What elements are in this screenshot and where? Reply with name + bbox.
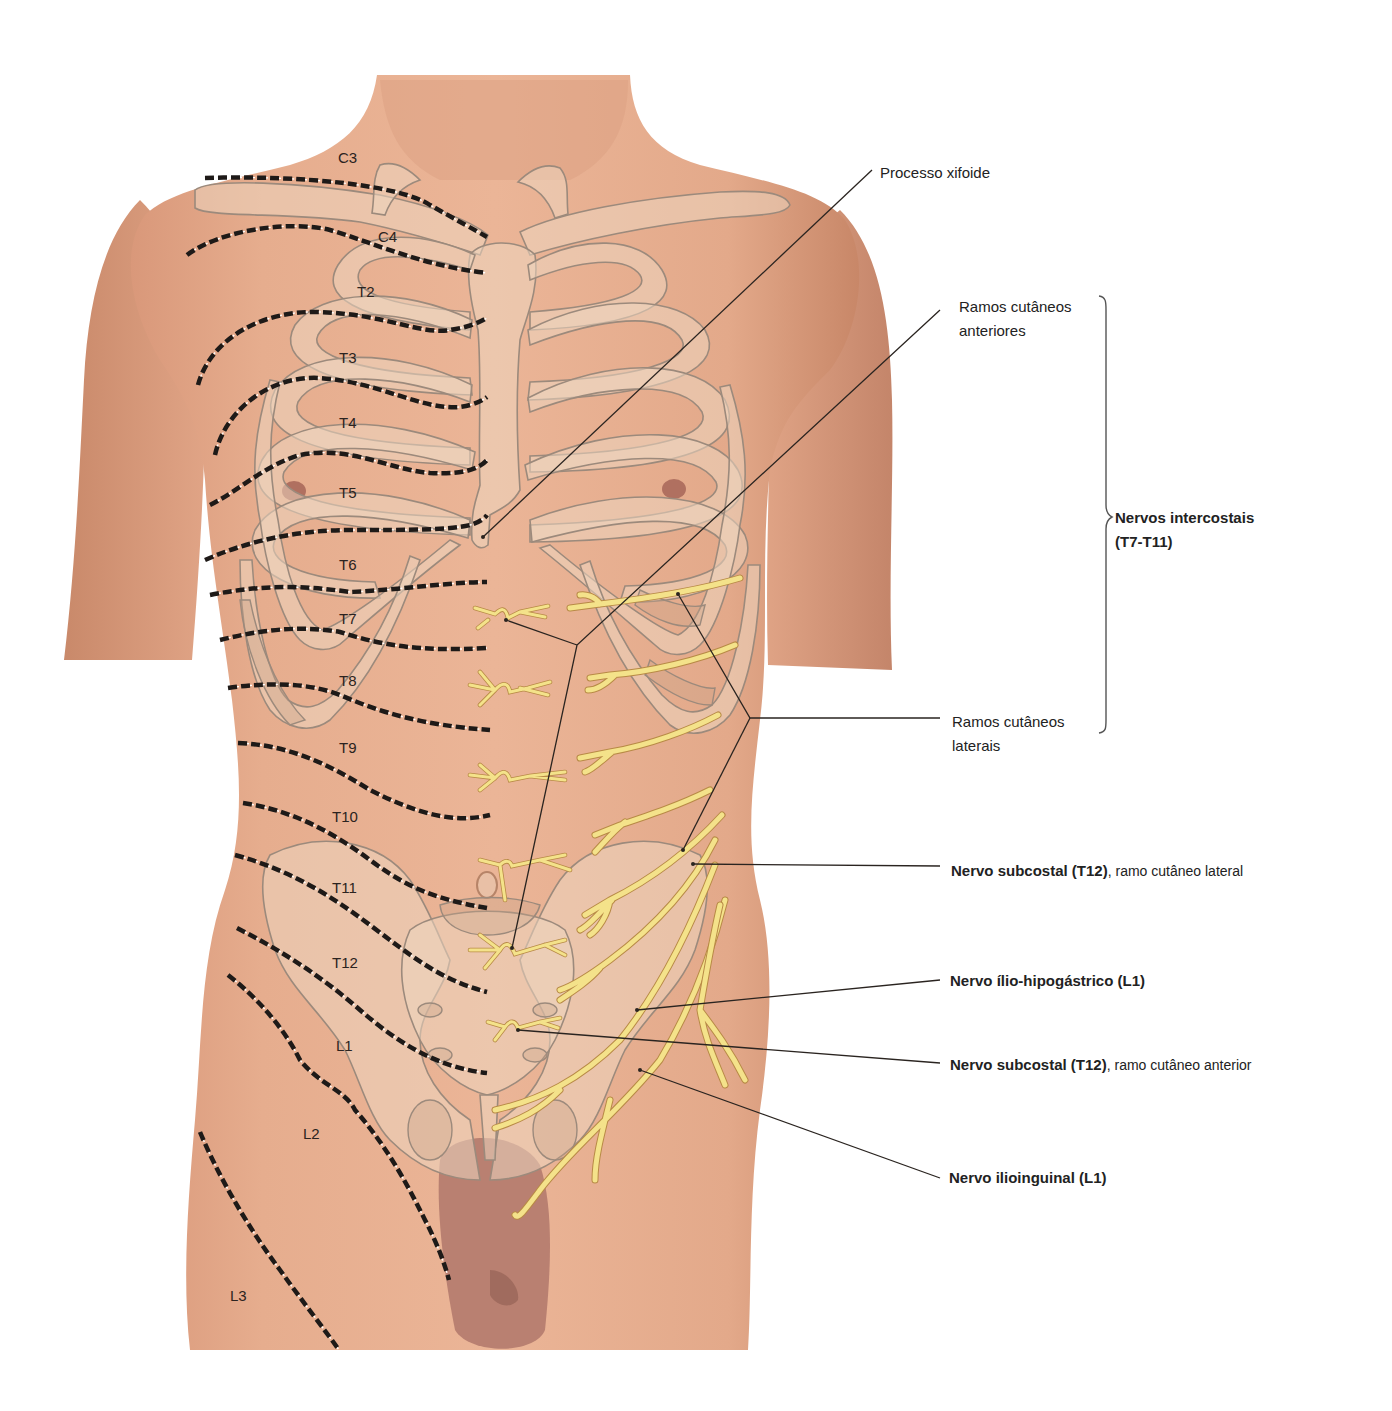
- intercostal-bracket: [1099, 296, 1112, 733]
- label-nervo-subcostal-lateral: Nervo subcostal (T12), ramo cutâneo late…: [951, 859, 1243, 883]
- label-nervos-intercostais: Nervos intercostais (T7-T11): [1115, 506, 1254, 554]
- dermatome-label-t2: T2: [357, 283, 375, 300]
- dermatome-label-t8: T8: [339, 672, 357, 689]
- anatomy-illustration: C3 C4 T2 T3 T4 T5 T6 T7 T8 T9 T10 T11 T1…: [0, 0, 1392, 1411]
- label-ramos-cutaneos-anteriores: Ramos cutâneos anteriores: [959, 295, 1072, 343]
- dermatome-label-t11: T11: [332, 879, 357, 896]
- dermatome-label-t10: T10: [332, 808, 358, 825]
- label-nervo-ilioinguinal: Nervo ilioinguinal (L1): [949, 1166, 1107, 1190]
- dermatome-label-t4: T4: [339, 414, 357, 431]
- label-processo-xifoide: Processo xifoide: [880, 161, 990, 185]
- dermatome-label-t7: T7: [339, 610, 357, 627]
- dermatome-label-l1: L1: [336, 1037, 353, 1054]
- label-nervo-ilio-hipogastrico: Nervo ílio-hipogástrico (L1): [950, 969, 1145, 993]
- dermatome-label-t6: T6: [339, 556, 357, 573]
- right-nipple: [662, 479, 686, 499]
- dermatome-label-t9: T9: [339, 739, 357, 756]
- dermatome-label-t12: T12: [332, 954, 358, 971]
- umbilicus: [477, 872, 497, 898]
- dermatome-label-c4: C4: [378, 228, 397, 245]
- dermatome-label-t3: T3: [339, 349, 357, 366]
- dermatome-label-l2: L2: [303, 1125, 320, 1142]
- dermatome-label-c3: C3: [338, 149, 357, 166]
- dermatome-label-l3: L3: [230, 1287, 247, 1304]
- left-obturator: [408, 1100, 452, 1160]
- dermatome-label-t5: T5: [339, 484, 357, 501]
- label-ramos-cutaneos-laterais: Ramos cutâneos laterais: [952, 710, 1065, 758]
- label-nervo-subcostal-anterior: Nervo subcostal (T12), ramo cutâneo ante…: [950, 1053, 1251, 1077]
